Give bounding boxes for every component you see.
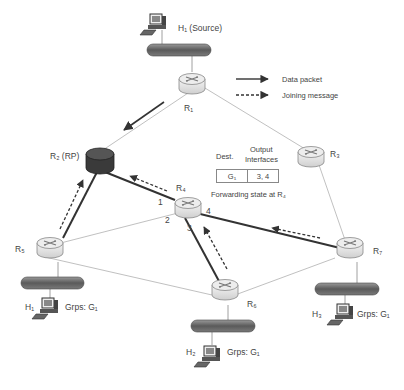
host-h3-pc-icon	[327, 304, 353, 325]
r4-interface-4-label: 4	[206, 207, 211, 216]
h3-lan-bus	[315, 283, 379, 295]
r4-interface-1-label: 1	[158, 198, 163, 207]
link-r4-r7	[192, 212, 340, 248]
r4-interface-2-label: 2	[165, 216, 170, 225]
multicast-network-diagram	[0, 0, 404, 390]
legend-data-packet-label: Data packet	[282, 76, 322, 84]
router-r1-icon	[179, 74, 205, 95]
h2-label: H₂	[186, 348, 195, 357]
host-h1-pc-icon	[32, 298, 58, 319]
r5-label: R₅	[15, 245, 25, 254]
thin-links	[45, 85, 345, 295]
r4-label: R₄	[176, 184, 186, 193]
r6-label: R₆	[247, 300, 257, 309]
tree-links	[63, 170, 340, 283]
fwd-table-header-output: Output	[250, 146, 273, 154]
h1-lan-bus	[21, 277, 84, 289]
h1-groups-label: Grps: G₁	[65, 303, 98, 312]
link-r2-r5	[63, 172, 97, 238]
host-h2-pc-icon	[194, 346, 220, 367]
r7-label: R₇	[373, 247, 382, 256]
router-r4-icon	[175, 198, 201, 219]
data-packet-arrow	[124, 102, 164, 130]
fwd-table-caption: Forwarding state at R₄	[211, 191, 286, 199]
link-r2-r4	[100, 170, 175, 200]
fwd-table-dest-cell: G₁	[217, 170, 248, 183]
source-lan-bus	[147, 44, 211, 56]
fwd-table-header-dest: Dest.	[216, 153, 234, 161]
h3-label: H₃	[312, 310, 322, 319]
link-r1-r2	[100, 85, 200, 152]
r1-label: R₁	[184, 104, 193, 113]
link-r3-r7	[318, 162, 345, 240]
router-r5-icon	[37, 238, 63, 259]
h2-lan-bus	[191, 320, 255, 332]
router-r6-icon	[212, 280, 238, 301]
table-row: G₁ 3, 4	[217, 170, 279, 183]
legend-joining-message-label: Joining message	[282, 92, 338, 100]
h2-groups-label: Grps: G₁	[227, 348, 260, 357]
fwd-table-header-interfaces: Interfaces	[245, 156, 278, 164]
r4-interface-3-label: 3	[187, 224, 192, 233]
r2-label: R₂ (RP)	[50, 152, 79, 161]
h1-label: H₁	[25, 303, 34, 312]
r3-label: R₃	[330, 150, 340, 159]
source-host-label: H₁ (Source)	[178, 24, 222, 33]
join-arrow-r6-r4	[204, 227, 227, 269]
h3-groups-label: Grps: G₁	[357, 310, 390, 319]
router-r2-rp-icon	[86, 148, 114, 174]
fwd-table-output-cell: 3, 4	[248, 170, 279, 183]
forwarding-table: G₁ 3, 4	[216, 169, 279, 183]
router-r3-icon	[298, 147, 324, 168]
router-r7-icon	[337, 238, 363, 259]
